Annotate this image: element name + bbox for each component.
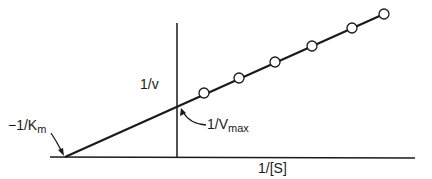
y-axis-label: 1/v xyxy=(140,76,159,92)
data-point xyxy=(379,9,389,19)
regression-line xyxy=(65,14,384,157)
data-point xyxy=(270,57,280,67)
x-axis-label: 1/[S] xyxy=(258,160,287,176)
data-point xyxy=(199,88,209,98)
y-intercept-label: 1/Vmax xyxy=(207,116,249,134)
lineweaver-burk-plot xyxy=(0,0,432,179)
data-point xyxy=(234,73,244,83)
x-intercept-label: −1/Km xyxy=(8,117,46,135)
x-intercept-label-main: −1/K xyxy=(8,117,37,133)
data-point xyxy=(307,41,317,51)
vmax-arrow xyxy=(180,108,206,125)
x-intercept-label-sub: m xyxy=(37,123,46,135)
data-point xyxy=(347,23,357,33)
x-axis xyxy=(50,157,415,158)
km-arrow xyxy=(51,133,64,156)
y-intercept-label-main: 1/V xyxy=(207,116,228,132)
y-intercept-label-sub: max xyxy=(228,122,249,134)
